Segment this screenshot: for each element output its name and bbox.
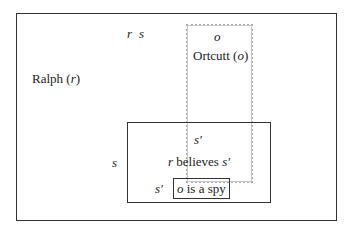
- top-label-s: s: [139, 27, 144, 40]
- belief-top-label: s′: [194, 133, 202, 146]
- belief-subject: r: [168, 154, 173, 169]
- top-label-r: r: [127, 27, 132, 40]
- ralph-name: Ralph: [32, 71, 63, 86]
- ortcutt-name: Ortcutt: [193, 48, 230, 63]
- belief-relation: r believes s′: [168, 155, 230, 168]
- belief-verb: believes: [176, 154, 219, 169]
- ralph-var: r: [71, 71, 76, 86]
- ortcutt-var: o: [237, 48, 244, 63]
- proposition-text: o is a spy: [177, 182, 226, 195]
- proposition-side-label: s′: [155, 182, 163, 195]
- ortcutt-label: Ortcutt (o): [193, 49, 248, 62]
- belief-object: s′: [222, 154, 230, 169]
- ralph-label: Ralph (r): [32, 72, 80, 85]
- proposition-subject: o: [177, 181, 184, 196]
- ortcutt-var-label: o: [214, 30, 221, 43]
- proposition-predicate: is a spy: [187, 181, 226, 196]
- belief-side-label: s: [112, 156, 117, 169]
